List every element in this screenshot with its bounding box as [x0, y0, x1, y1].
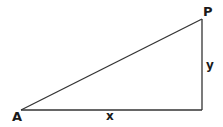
triangle-figure: [0, 0, 223, 127]
hypotenuse-ap: [21, 19, 202, 110]
vertex-label-a: A: [12, 110, 22, 123]
side-label-y: y: [206, 59, 214, 71]
vertex-label-p: P: [203, 5, 213, 18]
side-label-x: x: [106, 110, 114, 122]
